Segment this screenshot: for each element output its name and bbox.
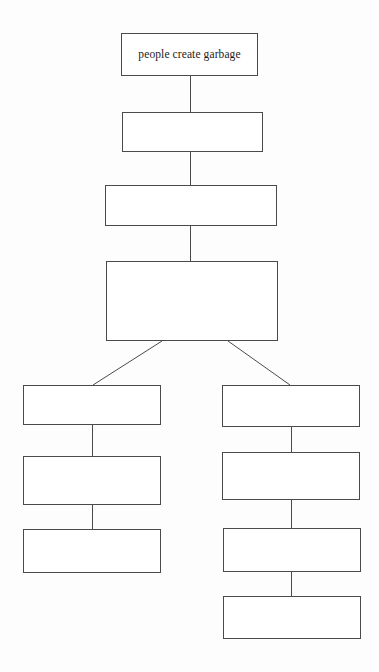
- flowchart-node-1[interactable]: people create garbage: [121, 33, 258, 76]
- flowchart-node-right-2[interactable]: [222, 452, 360, 500]
- connector-node4-left-branch: [93, 341, 162, 385]
- connector-node4-right-branch: [228, 341, 290, 385]
- flowchart-node-2[interactable]: [122, 112, 263, 152]
- flowchart-node-4[interactable]: [106, 261, 278, 341]
- flowchart-node-1-label: people create garbage: [132, 47, 246, 63]
- flowchart-node-left-2[interactable]: [23, 456, 161, 505]
- flowchart-node-left-1[interactable]: [23, 385, 161, 425]
- flowchart-node-left-3[interactable]: [23, 529, 161, 573]
- flowchart-node-right-1[interactable]: [222, 385, 360, 427]
- flowchart-node-right-3[interactable]: [223, 528, 361, 572]
- flowchart-node-right-4[interactable]: [223, 596, 361, 639]
- flowchart-canvas: people create garbage: [0, 0, 379, 672]
- flowchart-node-3[interactable]: [105, 185, 277, 226]
